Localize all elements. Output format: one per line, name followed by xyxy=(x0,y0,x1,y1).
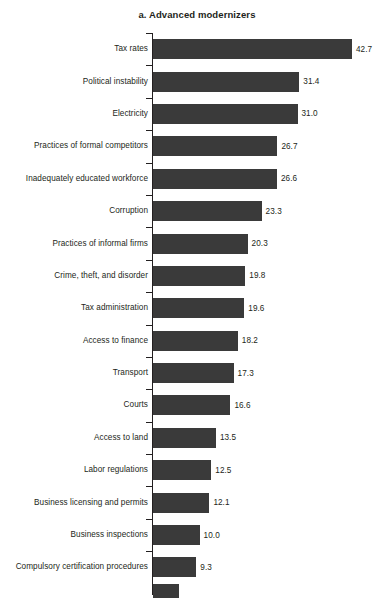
bar-value-label: 23.3 xyxy=(266,207,282,216)
category-label: Access to finance xyxy=(0,336,148,346)
bar-value-label: 20.3 xyxy=(252,239,268,248)
bar-and-value: 19.8 xyxy=(153,260,265,292)
bar-row: Political instability31.4 xyxy=(0,65,384,97)
category-label: Transport xyxy=(0,368,148,378)
bar-value-label: 31.4 xyxy=(303,77,319,86)
bar-row: Courts16.6 xyxy=(0,389,384,421)
bar-and-value: 12.5 xyxy=(153,454,231,486)
bar-value-label: 19.6 xyxy=(248,304,264,313)
bar-row: Business inspections10.0 xyxy=(0,519,384,551)
bar-and-value: 18.2 xyxy=(153,325,258,357)
category-label: Practices of informal firms xyxy=(0,239,148,249)
chart-title: a. Advanced modernizers xyxy=(0,0,384,20)
category-label: Business licensing and permits xyxy=(0,498,148,508)
bar-and-value: 31.0 xyxy=(153,98,318,130)
bar xyxy=(153,72,299,92)
bar-row: Crime, theft, and disorder19.8 xyxy=(0,260,384,292)
axis-tick xyxy=(146,486,152,487)
axis-tick xyxy=(146,357,152,358)
bar-and-value: 20.3 xyxy=(153,227,268,259)
bar-row-list: Tax rates42.7Political instability31.4El… xyxy=(0,33,384,584)
bar xyxy=(153,104,298,124)
bar xyxy=(153,395,230,415)
bar-and-value: 16.6 xyxy=(153,389,251,421)
axis-tick xyxy=(146,33,152,34)
bar-value-label: 19.8 xyxy=(249,271,265,280)
bar-and-value: 26.6 xyxy=(153,163,297,195)
bar xyxy=(153,201,262,221)
bar xyxy=(153,428,216,448)
axis-tick xyxy=(146,422,152,423)
bar-row: Corruption23.3 xyxy=(0,195,384,227)
axis-tick xyxy=(146,389,152,390)
bar-row: Business licensing and permits12.1 xyxy=(0,486,384,518)
bar-and-value: 12.1 xyxy=(153,486,230,518)
bar-value-label: 16.6 xyxy=(234,401,250,410)
category-label: Courts xyxy=(0,400,148,410)
axis-tick xyxy=(146,519,152,520)
category-label: Political instability xyxy=(0,77,148,87)
bar-and-value: 13.5 xyxy=(153,422,236,454)
bar-value-label: 26.7 xyxy=(281,142,297,151)
clipped-bottom-bar xyxy=(153,584,179,598)
bar-and-value: 26.7 xyxy=(153,130,298,162)
bar-value-label: 9.3 xyxy=(200,563,212,572)
axis-tick xyxy=(146,65,152,66)
bar-and-value: 17.3 xyxy=(153,357,254,389)
bar xyxy=(153,493,209,513)
bar xyxy=(153,331,238,351)
bar xyxy=(153,525,200,545)
axis-tick xyxy=(146,325,152,326)
bar xyxy=(153,557,196,577)
axis-tick xyxy=(146,454,152,455)
bar xyxy=(153,234,248,254)
bar-value-label: 12.5 xyxy=(215,466,231,475)
category-label: Tax administration xyxy=(0,303,148,313)
bar xyxy=(153,460,211,480)
bar-row: Access to finance18.2 xyxy=(0,325,384,357)
category-label: Access to land xyxy=(0,433,148,443)
axis-tick xyxy=(146,551,152,552)
category-label: Inadequately educated workforce xyxy=(0,174,148,184)
bar xyxy=(153,266,245,286)
bar-row: Labor regulations12.5 xyxy=(0,454,384,486)
bar-row: Tax administration19.6 xyxy=(0,292,384,324)
category-label: Business inspections xyxy=(0,530,148,540)
clipped-bottom-bar-fill xyxy=(153,584,179,598)
axis-tick xyxy=(146,130,152,131)
bar-and-value: 19.6 xyxy=(153,292,264,324)
bar-row: Compulsory certification procedures9.3 xyxy=(0,551,384,583)
bar-value-label: 10.0 xyxy=(204,531,220,540)
bar xyxy=(153,298,244,318)
category-label: Labor regulations xyxy=(0,465,148,475)
bar-and-value: 9.3 xyxy=(153,551,212,583)
bar-row: Electricity31.0 xyxy=(0,98,384,130)
bar-value-label: 13.5 xyxy=(220,433,236,442)
bar-row: Transport17.3 xyxy=(0,357,384,389)
bar xyxy=(153,39,352,59)
bar-value-label: 42.7 xyxy=(356,45,372,54)
bar-row: Tax rates42.7 xyxy=(0,33,384,65)
bar xyxy=(153,169,277,189)
bar-row: Practices of formal competitors26.7 xyxy=(0,130,384,162)
bar-row: Access to land13.5 xyxy=(0,422,384,454)
bar-value-label: 12.1 xyxy=(213,498,229,507)
axis-tick xyxy=(146,260,152,261)
bar-row: Inadequately educated workforce26.6 xyxy=(0,163,384,195)
axis-tick xyxy=(146,227,152,228)
bar-value-label: 26.6 xyxy=(281,174,297,183)
bar-and-value: 31.4 xyxy=(153,65,319,97)
axis-tick xyxy=(146,195,152,196)
bar-and-value: 23.3 xyxy=(153,195,282,227)
category-label: Compulsory certification procedures xyxy=(0,562,148,572)
axis-tick xyxy=(146,98,152,99)
bar-and-value: 42.7 xyxy=(153,33,372,65)
axis-tick xyxy=(146,292,152,293)
bar xyxy=(153,136,277,156)
bar-row: Practices of informal firms20.3 xyxy=(0,227,384,259)
plot-area: Tax rates42.7Political instability31.4El… xyxy=(0,33,384,598)
category-label: Corruption xyxy=(0,206,148,216)
category-label: Practices of formal competitors xyxy=(0,141,148,151)
bar xyxy=(153,363,234,383)
category-label: Tax rates xyxy=(0,44,148,54)
